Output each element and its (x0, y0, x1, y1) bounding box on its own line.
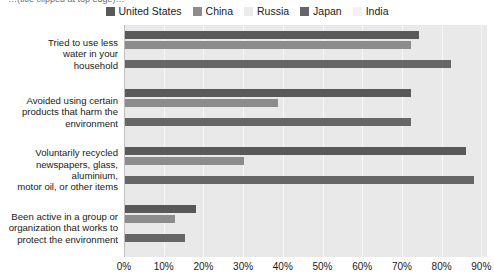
bar-japan[interactable] (125, 60, 451, 68)
category-label-line: motor oil, or other items (0, 181, 118, 192)
category-label-line: Tried to use less (0, 37, 118, 48)
x-axis: 0%10%20%30%40%50%60%70%80%90% (124, 257, 487, 277)
x-tick-label: 20% (193, 261, 213, 272)
bar-japan[interactable] (125, 234, 185, 242)
plot-wrapper: Tried to use lesswater in yourhouseholdA… (0, 25, 494, 261)
legend-swatch-icon (244, 7, 253, 16)
x-tick-label: 90% (471, 261, 491, 272)
bar-united-states[interactable] (125, 89, 411, 97)
gridline (481, 25, 482, 257)
bar-china[interactable] (125, 99, 278, 107)
category-label-line: Been active in a group or (0, 211, 118, 222)
category-label-line: newspapers, glass, (0, 159, 118, 170)
category-label-line: water in your (0, 48, 118, 59)
category-label-line: organization that works to (0, 222, 118, 233)
bar-united-states[interactable] (125, 205, 196, 213)
category-label-line: household (0, 60, 118, 71)
legend-swatch-icon (353, 7, 362, 16)
legend-item-united-states[interactable]: United States (106, 6, 182, 17)
x-tick-label: 50% (312, 261, 332, 272)
bar-japan[interactable] (125, 118, 411, 126)
legend-label: United States (119, 6, 182, 17)
x-tick-label: 30% (233, 261, 253, 272)
category-label-line: environment (0, 118, 118, 129)
legend-label: India (366, 6, 389, 17)
bar-china[interactable] (125, 157, 244, 165)
bar-united-states[interactable] (125, 147, 466, 155)
category-label-line: Avoided using certain (0, 95, 118, 106)
legend-swatch-icon (193, 7, 202, 16)
bar-japan[interactable] (125, 176, 474, 184)
x-tick-label: 40% (273, 261, 293, 272)
chart-title-clipped: …(title clipped at top edge)… (0, 0, 494, 5)
x-tick-label: 70% (392, 261, 412, 272)
legend-item-india[interactable]: India (353, 6, 389, 17)
bar-china[interactable] (125, 41, 411, 49)
x-tick-label: 60% (352, 261, 372, 272)
legend-item-russia[interactable]: Russia (244, 6, 289, 17)
legend-item-japan[interactable]: Japan (300, 6, 342, 17)
category-label-line: protect the environment (0, 234, 118, 245)
category-label-line: products that harm the (0, 106, 118, 117)
category-label: Avoided using certainproducts that harm … (0, 95, 118, 129)
chart-legend: United StatesChinaRussiaJapanIndia (0, 6, 494, 17)
x-tick-label: 0% (117, 261, 131, 272)
category-label-line: Voluntarily recycled (0, 147, 118, 158)
legend-swatch-icon (106, 7, 115, 16)
plot-area (124, 25, 487, 257)
category-label: Voluntarily recyclednewspapers, glass,al… (0, 147, 118, 193)
bar-united-states[interactable] (125, 31, 419, 39)
category-label: Tried to use lesswater in yourhousehold (0, 37, 118, 71)
chart-title-text: …(title clipped at top edge)… (0, 0, 494, 5)
chart-container: …(title clipped at top edge)… United Sta… (0, 0, 494, 279)
x-tick-label: 10% (154, 261, 174, 272)
category-label-line: aluminium, (0, 170, 118, 181)
legend-item-china[interactable]: China (193, 6, 233, 17)
legend-label: Japan (313, 6, 342, 17)
legend-label: Russia (257, 6, 289, 17)
legend-swatch-icon (300, 7, 309, 16)
bar-china[interactable] (125, 215, 175, 223)
category-axis: Tried to use lesswater in yourhouseholdA… (0, 25, 122, 257)
category-label: Been active in a group ororganization th… (0, 211, 118, 245)
x-tick-label: 80% (432, 261, 452, 272)
legend-label: China (206, 6, 233, 17)
